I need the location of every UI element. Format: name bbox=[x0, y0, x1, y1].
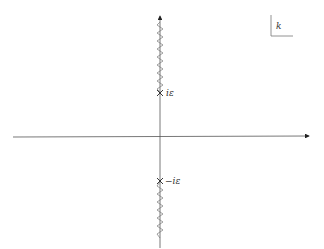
real-axis bbox=[13, 136, 309, 137]
upper-point-label: iε bbox=[166, 88, 174, 98]
k-plane-diagram: iε −iε k bbox=[0, 0, 324, 249]
lower-point-label: −iε bbox=[165, 176, 180, 186]
plane-label: k bbox=[276, 21, 281, 31]
plane-indicator bbox=[271, 15, 293, 36]
